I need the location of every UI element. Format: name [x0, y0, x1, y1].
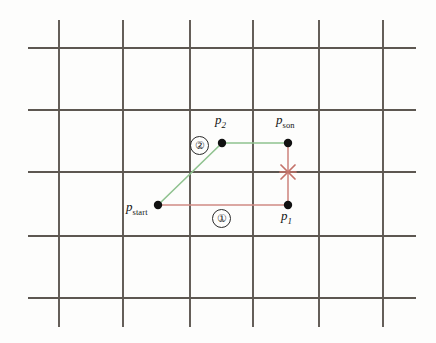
node-dots [154, 139, 292, 209]
node-dot-p-2 [218, 139, 226, 147]
figure-svg [0, 0, 436, 343]
node-label-p-2: p2 [215, 113, 226, 130]
path-2-polyline [158, 143, 288, 205]
node-label-p-son: pson [276, 113, 295, 129]
label-subscript-p-start: start [133, 207, 148, 217]
node-label-p-start: pstart [126, 200, 148, 216]
label-subscript-p-2: 2 [222, 120, 227, 130]
path-lines [158, 143, 288, 205]
step-2-badge: ② [190, 136, 209, 155]
grid-lines [28, 20, 416, 327]
label-subscript-p-1: 1 [288, 216, 293, 226]
node-dot-p-start [154, 201, 162, 209]
node-label-p-1: p1 [281, 209, 292, 226]
step-1-badge: ① [212, 209, 231, 228]
path-1-polyline [158, 143, 288, 205]
diagram-canvas: pstart p1 p2 pson ① ② [0, 0, 436, 343]
label-subscript-p-son: son [283, 120, 295, 130]
node-dot-p-son [284, 139, 292, 147]
